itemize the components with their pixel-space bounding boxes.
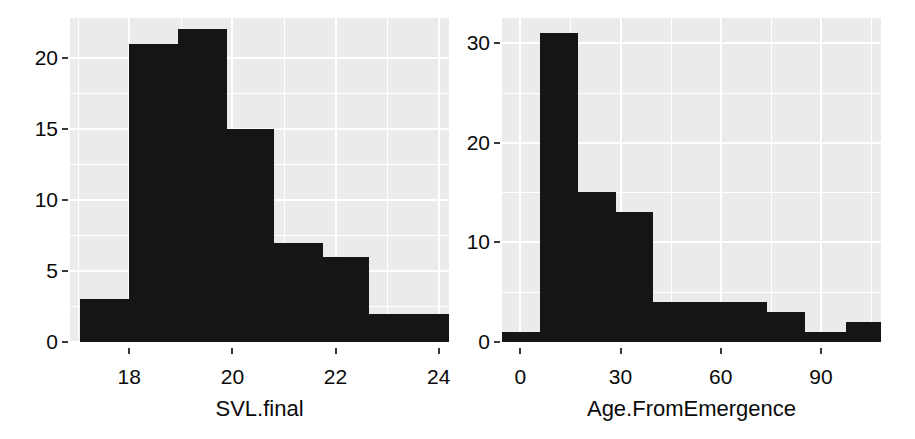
histogram-bar [502, 332, 540, 342]
y-tick-label: 30 [455, 32, 490, 53]
histogram-bar [178, 29, 227, 342]
histogram-bar [767, 312, 805, 342]
histogram-bar [80, 299, 129, 342]
plot-area-svl-final [70, 18, 449, 342]
histogram-bar [129, 44, 178, 342]
gridline-v-major [720, 18, 722, 342]
y-tick-label: 20 [0, 47, 58, 68]
y-tick-mark [62, 57, 68, 59]
histogram-bar [274, 243, 323, 342]
y-tick-mark [62, 128, 68, 130]
x-tick-label: 60 [681, 366, 761, 387]
gridline-v-minor [871, 18, 872, 342]
gridline-h-minor [70, 93, 449, 94]
histogram-bar [578, 192, 616, 342]
y-tick-mark [494, 42, 500, 44]
x-tick-label: 22 [296, 366, 376, 387]
histogram-bar [227, 129, 273, 342]
y-tick-mark [494, 341, 500, 343]
x-tick-label: 18 [89, 366, 169, 387]
histogram-bar [616, 212, 653, 342]
y-tick-label: 0 [455, 331, 490, 352]
x-tick-mark [335, 348, 337, 354]
y-tick-label: 0 [0, 331, 58, 352]
y-tick-label: 15 [0, 118, 58, 139]
histogram-bar [805, 332, 846, 342]
x-tick-label: 20 [192, 366, 272, 387]
x-axis-title-svl-final: SVL.final [70, 398, 449, 420]
histogram-bar [369, 314, 449, 342]
panel-age-from-emergence: 01020300306090 Age.FromEmergence [455, 0, 915, 439]
gridline-v-major [820, 18, 822, 342]
gridline-v-minor [78, 18, 79, 342]
gridline-v-major [519, 18, 521, 342]
gridline-v-major [438, 18, 440, 342]
histogram-bar [323, 257, 369, 342]
x-tick-mark [128, 348, 130, 354]
y-tick-mark [62, 199, 68, 201]
x-tick-mark [231, 348, 233, 354]
gridline-v-minor [387, 18, 388, 342]
histogram-bar [540, 33, 578, 342]
x-tick-label: 0 [480, 366, 560, 387]
x-tick-label: 90 [781, 366, 861, 387]
x-tick-mark [519, 348, 521, 354]
y-tick-label: 10 [455, 231, 490, 252]
y-tick-label: 5 [0, 260, 58, 281]
y-tick-label: 20 [455, 132, 490, 153]
x-tick-mark [820, 348, 822, 354]
gridline-v-minor [671, 18, 672, 342]
panel-svl-final: 0510152018202224 SVL.final [0, 0, 460, 439]
x-tick-label: 30 [581, 366, 661, 387]
y-tick-mark [494, 241, 500, 243]
histogram-bar [653, 302, 767, 342]
x-tick-mark [438, 348, 440, 354]
x-axis-title-age-from-emergence: Age.FromEmergence [502, 398, 881, 420]
x-tick-mark [720, 348, 722, 354]
histogram-figure: 0510152018202224 SVL.final 0102030030609… [0, 0, 915, 439]
gridline-v-minor [771, 18, 772, 342]
y-tick-label: 10 [0, 189, 58, 210]
y-tick-mark [62, 270, 68, 272]
plot-area-age-from-emergence [502, 18, 881, 342]
histogram-bar [846, 322, 881, 342]
gridline-h-major [70, 57, 449, 59]
y-tick-mark [62, 341, 68, 343]
x-tick-mark [620, 348, 622, 354]
y-tick-mark [494, 142, 500, 144]
